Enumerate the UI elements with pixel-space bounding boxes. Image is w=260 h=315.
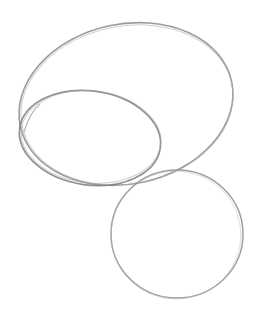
inner-ellipse <box>13 82 167 195</box>
sketch-canvas <box>0 0 260 315</box>
lower-circle <box>111 170 243 299</box>
